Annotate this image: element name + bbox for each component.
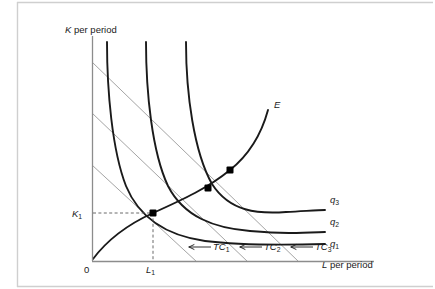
tc2-symbol: TC [264, 241, 277, 252]
isoquant-q3-label: q3 [330, 194, 339, 206]
q3-subscript: 3 [335, 199, 339, 206]
q1-subscript: 1 [335, 243, 339, 250]
isoquant-curves-group [107, 42, 325, 245]
figure-root: K per period L per period 0 K1 L1 E q3 q… [0, 0, 435, 289]
x-axis-title: L per period [322, 259, 373, 270]
l1-subscript: 1 [151, 269, 155, 276]
point-q3-tc3-marker [227, 167, 234, 174]
point-q1-tc1-marker [150, 210, 157, 217]
tc-arrows-group [189, 245, 313, 250]
point-q2-tc2-marker [205, 185, 212, 192]
expansion-path-chart: K per period L per period 0 K1 L1 E q3 q… [0, 0, 435, 289]
isocost-tc2-label: TC2 [264, 241, 281, 253]
tc1-symbol: TC [213, 241, 226, 252]
tc3-subscript: 3 [328, 246, 332, 253]
isoquant-q2-label: q2 [330, 216, 339, 228]
guide-lines-group [93, 213, 153, 261]
isoquant-q1-curve [107, 42, 325, 245]
k1-axis-label: K1 [72, 208, 82, 220]
tc1-subscript: 1 [226, 246, 230, 253]
expansion-path-label: E [274, 99, 281, 110]
k1-subscript: 1 [78, 213, 82, 220]
isocost-tc2-line [92, 113, 248, 262]
y-axis-title-rest: per period [71, 24, 116, 35]
y-axis-title: K per period [65, 24, 117, 35]
x-axis-title-rest: per period [327, 259, 372, 270]
expansion-path-group [93, 110, 268, 259]
l1-axis-label: L1 [146, 264, 155, 276]
axes-group [92, 36, 374, 262]
origin-label: 0 [84, 264, 89, 275]
tc2-subscript: 2 [277, 246, 281, 253]
expansion-path-curve [93, 110, 268, 259]
tc3-symbol: TC [315, 241, 328, 252]
q2-subscript: 2 [335, 221, 339, 228]
